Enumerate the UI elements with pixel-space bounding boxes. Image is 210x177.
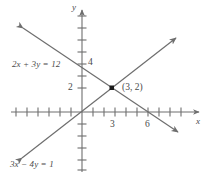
y-tick-label-2: 2: [68, 83, 73, 93]
x-tick-label-3: 3: [110, 120, 115, 130]
y-axis: [78, 10, 87, 172]
graph-figure: 2x + 3y = 12 3x − 4y = 1 y x 4 2 3 6 (3,…: [0, 0, 210, 177]
coordinate-plane: [0, 0, 210, 177]
equation-2-label: 3x − 4y = 1: [10, 160, 54, 169]
x-tick-label-6: 6: [145, 120, 150, 130]
intersection-point-label: (3, 2): [122, 83, 143, 93]
x-axis: [11, 108, 199, 117]
y-tick-label-4: 4: [88, 58, 93, 68]
x-axis-label: x: [196, 117, 200, 126]
line-equation-1: [23, 28, 178, 132]
line-equation-2: [22, 38, 176, 158]
intersection-point-marker: [110, 86, 115, 91]
y-axis-label: y: [72, 3, 76, 12]
equation-1-label: 2x + 3y = 12: [12, 60, 60, 69]
